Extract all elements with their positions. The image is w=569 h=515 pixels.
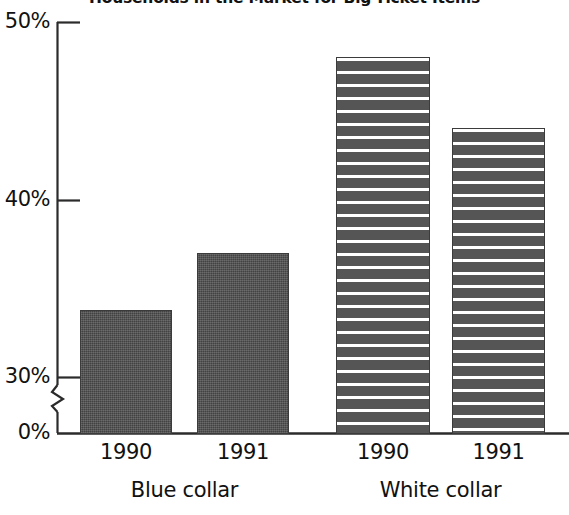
bar-blue-collar-1990 <box>80 310 172 434</box>
y-tick-label-50: 50% <box>0 11 50 32</box>
x-tick-label-white-collar-1990: 1990 <box>336 441 430 464</box>
y-tick-label-40: 40% <box>0 189 50 210</box>
group-label-white-collar: White collar <box>336 479 545 502</box>
bar-chart: Households in the Market for Big-Ticket … <box>0 0 569 515</box>
axis-break-icon <box>52 385 63 412</box>
x-tick-label-white-collar-1991: 1991 <box>452 441 545 464</box>
x-tick-label-blue-collar-1991: 1991 <box>197 441 289 464</box>
y-tick-label-30: 30% <box>0 366 50 387</box>
group-label-blue-collar: Blue collar <box>80 479 289 502</box>
plot-area: 50% 40% 30% 0% <box>0 0 569 440</box>
y-tick-label-0: 0% <box>0 422 50 443</box>
bar-blue-collar-1991 <box>197 253 289 434</box>
bar-white-collar-1990 <box>336 57 430 434</box>
bar-white-collar-1991 <box>452 128 545 434</box>
x-tick-label-blue-collar-1990: 1990 <box>80 441 172 464</box>
